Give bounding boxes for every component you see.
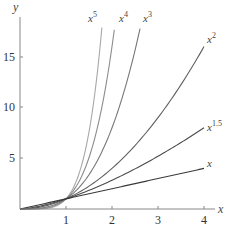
curve-x-pow-4 <box>20 30 114 209</box>
curve-x-pow-5 <box>20 28 102 209</box>
curves-group <box>20 28 204 209</box>
y-tick-label-15: 15 <box>3 50 15 64</box>
curve-x <box>20 168 204 209</box>
x-tick-label-4: 4 <box>201 213 207 227</box>
x-tick-label-2: 2 <box>109 213 115 227</box>
y-axis-label: y <box>12 0 19 14</box>
y-tick-label-10: 10 <box>3 100 15 114</box>
power-functions-chart: 1 2 3 4 5 10 15 x y x5 x4 x3 x2 x1.5 x <box>0 0 229 229</box>
label-x1-5: x1.5 <box>206 119 222 133</box>
label-x: x <box>206 157 212 169</box>
x-tick-label-3: 3 <box>155 213 161 227</box>
curve-x-pow-3 <box>20 29 140 209</box>
label-x3: x3 <box>142 10 152 24</box>
label-x4: x4 <box>118 10 128 24</box>
label-x5: x5 <box>87 10 97 24</box>
x-axis-label: x <box>217 202 224 216</box>
y-tick-label-5: 5 <box>9 151 15 165</box>
x-tick-label-1: 1 <box>63 213 69 227</box>
label-x2: x2 <box>206 31 216 45</box>
